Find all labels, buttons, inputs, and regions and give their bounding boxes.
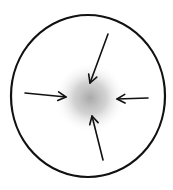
diagram-canvas: [0, 0, 173, 190]
convergence-diagram: [0, 0, 173, 190]
arrow-right-icon: [117, 94, 148, 103]
arrow-left-icon: [25, 92, 66, 101]
